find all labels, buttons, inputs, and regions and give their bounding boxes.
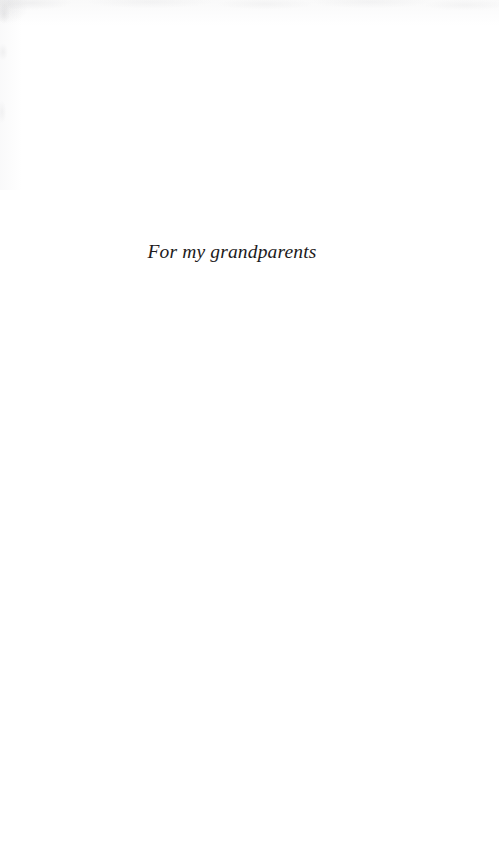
scan-shadow-top-edge [0, 0, 499, 26]
scan-shadow-corner [0, 0, 46, 40]
book-page: For my grandparents [0, 0, 499, 858]
dedication-text: For my grandparents [0, 239, 464, 265]
scan-shadow-left-edge [0, 0, 22, 190]
